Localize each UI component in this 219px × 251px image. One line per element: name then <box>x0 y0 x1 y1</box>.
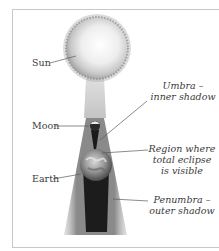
penumbra-label: Penumbra – outer shadow <box>148 194 216 216</box>
moon-label: Moon <box>32 120 59 131</box>
earth <box>80 149 112 181</box>
umbra-label: Umbra – inner shadow <box>150 80 216 102</box>
total-eclipse-region-label: Region where total eclipse is visible <box>148 143 216 176</box>
moon <box>90 121 100 131</box>
earth-label: Earth <box>32 173 59 184</box>
sun-glow-beam <box>84 78 106 118</box>
umbra-leader <box>100 101 147 140</box>
sun <box>63 14 131 82</box>
sun-label: Sun <box>32 57 51 68</box>
